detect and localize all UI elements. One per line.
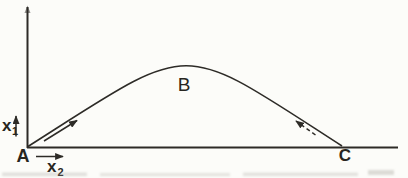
vertical-axis-label: x [2, 116, 12, 135]
ascent-arrow [44, 121, 77, 142]
horizontal-axis-subscript: 2 [58, 166, 64, 178]
trajectory-figure: A B C x 1 x 2 [0, 0, 408, 178]
trajectory-diagram-canvas: A B C x 1 x 2 [0, 0, 408, 178]
point-a-label: A [17, 146, 30, 166]
point-b-label: B [178, 74, 191, 95]
point-c-label: C [339, 146, 351, 165]
vertical-axis-subscript: 1 [12, 125, 18, 137]
